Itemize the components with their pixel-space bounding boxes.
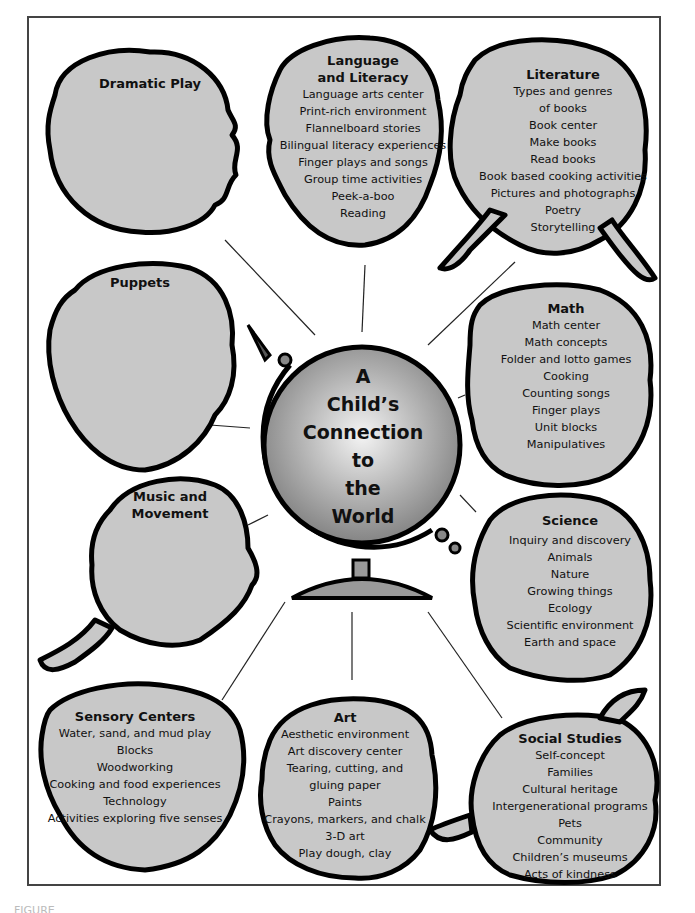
node-item: Bilingual literacy experiences [268, 137, 458, 154]
node-item: Math concepts [486, 334, 646, 351]
globe-pin-knob-bottom2 [450, 543, 460, 553]
node-dramatic-play: Dramatic Play [75, 75, 225, 92]
center-title-line: the [290, 474, 436, 502]
node-literature: Literature Types and genres of books Boo… [478, 66, 648, 236]
node-item: Language arts center [268, 86, 458, 103]
connector-music-movement [248, 515, 268, 525]
node-item: Technology [40, 793, 230, 810]
center-title-line: A [290, 362, 436, 390]
node-item: 3-D art [255, 828, 435, 845]
connector-dramatic-play [225, 240, 315, 335]
node-music-movement: Music and Movement [125, 488, 215, 522]
node-item: Counting songs [486, 385, 646, 402]
node-item: Group time activities [268, 171, 458, 188]
node-item: of books [478, 100, 648, 117]
node-item: Growing things [490, 583, 650, 600]
node-title: Music and [125, 488, 215, 505]
node-item: Finger plays [486, 402, 646, 419]
node-title: Science [490, 512, 650, 529]
node-item: Crayons, markers, and chalk [255, 811, 435, 828]
node-item: Scientific environment [490, 617, 650, 634]
globe-base [292, 579, 432, 598]
node-item: Earth and space [490, 634, 650, 651]
node-title: Dramatic Play [75, 75, 225, 92]
node-item: Finger plays and songs [268, 154, 458, 171]
center-title-line: World [290, 502, 436, 530]
center-title-line: Connection [290, 418, 436, 446]
node-title: Sensory Centers [40, 708, 230, 725]
node-item: Art discovery center [255, 743, 435, 760]
node-item: Reading [268, 205, 458, 222]
head-puppets [49, 264, 234, 470]
node-item: Ecology [490, 600, 650, 617]
node-item: Types and genres [478, 83, 648, 100]
node-title: Math [486, 300, 646, 317]
connector-math [458, 395, 465, 398]
node-item: Acts of kindness [480, 866, 660, 883]
figure-caption-cutoff: FIGURE [14, 904, 55, 913]
hair-tuft [430, 815, 472, 840]
node-title: Movement [125, 505, 215, 522]
node-math: Math Math center Math concepts Folder an… [486, 300, 646, 453]
node-language-literacy: Language and Literacy Language arts cent… [268, 52, 458, 222]
node-item: Activities exploring five senses [40, 810, 230, 827]
node-item: Math center [486, 317, 646, 334]
node-item: Water, sand, and mud play [40, 725, 230, 742]
node-item: Aesthetic environment [255, 726, 435, 743]
node-item: Cultural heritage [480, 781, 660, 798]
node-item: Children’s museums [480, 849, 660, 866]
node-title: Language [268, 52, 458, 69]
globe-pin-knob-bottom [436, 529, 448, 541]
node-item: Book center [478, 117, 648, 134]
connector-language-literacy [362, 265, 365, 332]
node-item: gluing paper [255, 777, 435, 794]
node-title: Literature [478, 66, 648, 83]
pigtail [40, 620, 112, 670]
node-item: Inquiry and discovery [490, 532, 650, 549]
node-title: and Literacy [268, 69, 458, 86]
node-title: Puppets [100, 274, 180, 291]
node-item: Woodworking [40, 759, 230, 776]
node-item: Paints [255, 794, 435, 811]
node-item: Book based cooking activities [478, 168, 648, 185]
center-title: A Child’s Connection to the World [290, 362, 436, 530]
node-item: Self-concept [480, 747, 660, 764]
globe-stem [353, 560, 369, 578]
hair-tuft-top [600, 690, 645, 722]
node-puppets: Puppets [100, 274, 180, 291]
node-item: Manipulatives [486, 436, 646, 453]
node-item: Folder and lotto games [486, 351, 646, 368]
node-item: Poetry [478, 202, 648, 219]
node-social-studies: Social Studies Self-concept Families Cul… [480, 730, 660, 883]
node-item: Cooking and food experiences [40, 776, 230, 793]
node-item: Families [480, 764, 660, 781]
node-item: Tearing, cutting, and [255, 760, 435, 777]
node-item: Read books [478, 151, 648, 168]
connector-puppets [210, 425, 250, 428]
node-item: Pets [480, 815, 660, 832]
node-art: Art Aesthetic environment Art discovery … [255, 709, 435, 862]
node-item: Play dough, clay [255, 845, 435, 862]
node-science: Science Inquiry and discovery Animals Na… [490, 512, 650, 651]
node-item: Blocks [40, 742, 230, 759]
node-item: Flannelboard stories [268, 120, 458, 137]
node-title: Art [255, 709, 435, 726]
node-item: Intergenerational programs [480, 798, 660, 815]
connector-science [460, 495, 476, 512]
node-item: Peek-a-boo [268, 188, 458, 205]
center-title-line: to [290, 446, 436, 474]
globe-pin-top [248, 325, 270, 360]
node-item: Make books [478, 134, 648, 151]
node-item: Nature [490, 566, 650, 583]
node-sensory-centers: Sensory Centers Water, sand, and mud pla… [40, 708, 230, 827]
node-title: Social Studies [480, 730, 660, 747]
node-item: Pictures and photographs [478, 185, 648, 202]
node-item: Storytelling [478, 219, 648, 236]
node-item: Unit blocks [486, 419, 646, 436]
node-item: Print-rich environment [268, 103, 458, 120]
node-item: Community [480, 832, 660, 849]
center-title-line: Child’s [290, 390, 436, 418]
node-item: Cooking [486, 368, 646, 385]
node-item: Animals [490, 549, 650, 566]
